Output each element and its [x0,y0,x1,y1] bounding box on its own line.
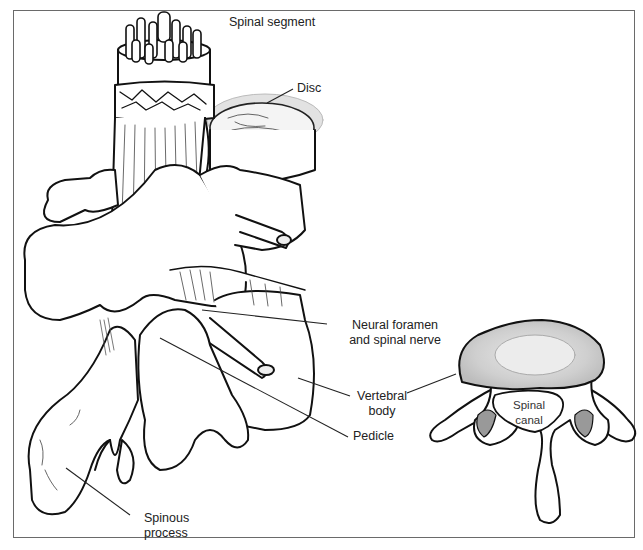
label-spinous-process-line2: process [144,526,189,541]
label-spinal-canal-line2: canal [505,413,553,428]
label-disc: Disc [297,81,321,96]
label-spinal-canal: Spinal canal [505,398,553,428]
label-spinous-process: Spinous process [144,511,189,541]
label-pedicle: Pedicle [353,429,394,444]
label-vertebral-body-line2: body [352,404,412,419]
label-spinal-canal-line1: Spinal [505,398,553,413]
label-neural-foramen-line1: Neural foramen [340,318,450,333]
label-spinal-segment: Spinal segment [229,15,315,30]
label-neural-foramen: Neural foramen and spinal nerve [340,318,450,348]
label-vertebral-body-line1: Vertebral [352,389,412,404]
vertebral-column-drawing [24,165,314,514]
label-neural-foramen-line2: and spinal nerve [340,333,450,348]
spine-illustration [0,0,643,550]
axial-vertebral-body-leader-line [407,374,456,393]
label-vertebral-body: Vertebral body [352,389,412,419]
label-spinous-process-line1: Spinous [144,511,189,526]
